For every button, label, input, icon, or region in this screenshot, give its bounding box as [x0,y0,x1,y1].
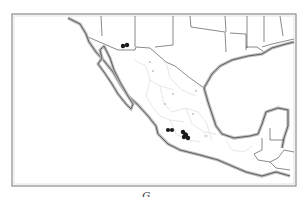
occurrence-point [121,44,125,48]
map-border-inner [14,16,294,184]
distribution-map [0,0,308,197]
minor-marker [152,70,154,72]
coastline [68,18,294,176]
occurrence-point [170,128,174,132]
map-border [12,14,296,186]
minor-marker [192,113,194,115]
minor-markers [149,61,197,115]
figure-caption: G. . . [0,191,308,197]
minor-marker [149,61,151,63]
occurrence-point [183,132,187,136]
occurrence-point [125,43,129,47]
minor-marker [195,90,197,92]
minor-marker [164,103,166,105]
occurrence-point [186,136,190,140]
central-america-borders [254,128,294,170]
occurrence-point [166,128,170,132]
minor-marker [172,93,174,95]
lakes [205,135,208,137]
